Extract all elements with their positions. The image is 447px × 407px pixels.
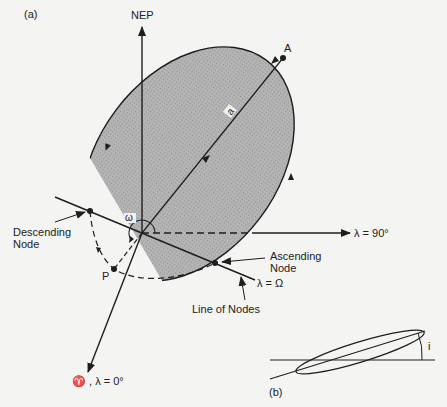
apoapsis-point bbox=[280, 55, 286, 61]
periapsis-label: P bbox=[102, 270, 109, 282]
orbit-plane-line bbox=[270, 331, 425, 379]
nep-label: NEP bbox=[131, 9, 154, 21]
panel-b-label: (b) bbox=[269, 386, 282, 398]
apoapsis-label: A bbox=[284, 42, 292, 54]
line-of-nodes-pointer bbox=[241, 277, 245, 300]
ascending-node-label-1: Ascending bbox=[270, 250, 321, 262]
inclined-orbit-ellipse bbox=[293, 323, 427, 381]
ascending-node-point bbox=[212, 260, 218, 266]
semi-major-arrow-up bbox=[271, 56, 279, 64]
descending-node-label-1: Descending bbox=[13, 226, 71, 238]
vernal-equinox-label: ♈ , λ = 0° bbox=[72, 375, 124, 388]
ascending-node-label-2: Node bbox=[270, 262, 296, 274]
descending-node-pointer bbox=[55, 212, 85, 222]
inclination-label: i bbox=[428, 340, 430, 352]
orbit-direction-arrow-right bbox=[288, 173, 294, 180]
vernal-equinox-axis bbox=[88, 233, 142, 372]
periapsis-point bbox=[111, 266, 117, 272]
descending-node-point bbox=[87, 208, 93, 214]
panel-a-label: (a) bbox=[24, 8, 37, 20]
lambda-90-label: λ = 90° bbox=[354, 227, 389, 239]
omega-label-box: ω bbox=[124, 212, 136, 223]
inclination-inset: i (b) bbox=[269, 323, 435, 398]
ascending-node-pointer bbox=[222, 258, 265, 262]
lambda-omega-label: λ = Ω bbox=[257, 277, 283, 289]
descending-node-label-2: Node bbox=[13, 238, 39, 250]
orbital-elements-diagram: (a) NEP A a ω Descending Node P λ = 90° … bbox=[0, 0, 447, 407]
omega-label: ω bbox=[125, 212, 133, 223]
orbit-ellipse bbox=[38, 6, 338, 322]
line-of-nodes-label: Line of Nodes bbox=[192, 303, 260, 315]
